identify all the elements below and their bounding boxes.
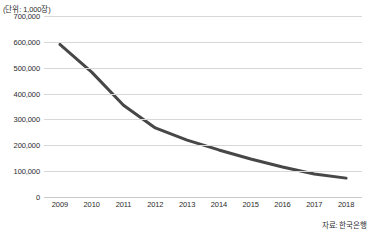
x-axis-tick: 2017: [306, 200, 322, 209]
y-axis-tick: 100,000: [0, 167, 40, 176]
y-axis-tick: 500,000: [0, 63, 40, 72]
line-series: [44, 16, 362, 197]
x-axis-tick: 2018: [338, 200, 354, 209]
y-axis-tick-labels: 0100,000200,000300,000400,000500,000600,…: [0, 16, 40, 197]
gridline: [44, 94, 362, 95]
x-axis-tick: 2010: [84, 200, 100, 209]
x-axis-tick: 2012: [147, 200, 163, 209]
gridline: [44, 171, 362, 172]
gridline: [44, 16, 362, 17]
plot-area: [44, 16, 362, 197]
gridline: [44, 197, 362, 198]
x-axis-tick: 2011: [116, 200, 132, 209]
gridline: [44, 119, 362, 120]
x-axis-tick: 2013: [179, 200, 195, 209]
x-axis-tick: 2016: [274, 200, 290, 209]
source-note: 자료: 한국은행: [322, 219, 367, 230]
chart-figure: (단위: 1,000장) 0100,000200,000300,000400,0…: [0, 0, 373, 235]
gridline: [44, 145, 362, 146]
x-axis-tick: 2015: [243, 200, 259, 209]
x-axis-tick-labels: 2009201020112012201320142015201620172018: [44, 200, 362, 212]
y-axis-tick: 400,000: [0, 89, 40, 98]
y-axis-tick: 600,000: [0, 37, 40, 46]
gridline: [44, 42, 362, 43]
y-axis-tick: 200,000: [0, 141, 40, 150]
x-axis-tick: 2014: [211, 200, 227, 209]
gridline: [44, 68, 362, 69]
y-axis-tick: 300,000: [0, 115, 40, 124]
y-axis-tick: 0: [0, 193, 40, 202]
x-axis-tick: 2009: [52, 200, 68, 209]
series-polyline: [60, 44, 346, 178]
y-axis-tick: 700,000: [0, 12, 40, 21]
